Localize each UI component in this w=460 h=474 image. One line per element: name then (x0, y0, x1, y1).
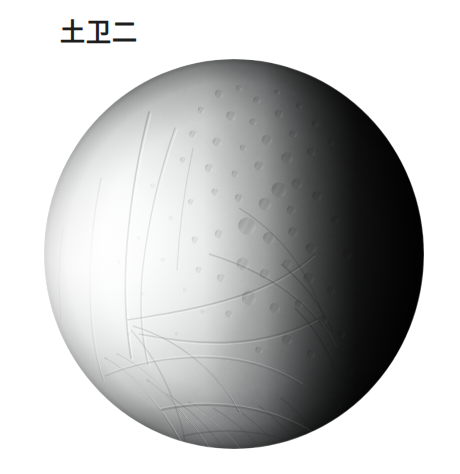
moon-disc (43, 58, 425, 450)
figure-root: 土卫二 (0, 0, 460, 474)
enceladus-image (43, 58, 425, 450)
enceladus-svg (43, 58, 425, 450)
caption-label: 土卫二 (60, 20, 138, 45)
image-grain (43, 58, 425, 450)
